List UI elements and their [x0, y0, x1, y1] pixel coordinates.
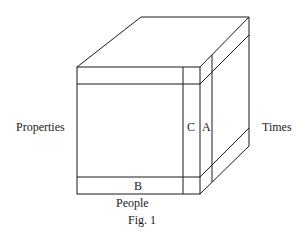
figure-caption: Fig. 1	[128, 214, 156, 226]
cube-front-face	[77, 67, 200, 194]
cube-diagram	[0, 0, 306, 234]
slice-label-c: C	[187, 121, 195, 133]
axis-label-properties: Properties	[16, 121, 65, 133]
slice-label-a: A	[202, 121, 211, 133]
cube-top-left-edge	[77, 17, 141, 67]
slice-label-b: B	[134, 180, 142, 192]
axis-label-times: Times	[262, 121, 292, 133]
axis-label-people: People	[116, 197, 149, 209]
